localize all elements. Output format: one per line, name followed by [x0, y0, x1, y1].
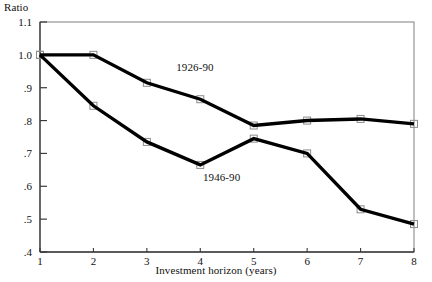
y-tick-label: .5	[6, 213, 32, 225]
data-point-markers	[37, 51, 418, 227]
line-chart-plot	[0, 0, 432, 282]
chart-figure: Ratio .4.5.6.7.8.91.01.1 12345678 1926-9…	[0, 0, 432, 282]
y-tick-label: .4	[6, 246, 32, 258]
y-axis-title: Ratio	[4, 1, 28, 13]
y-tick-label: .8	[6, 115, 32, 127]
y-tick-label: .7	[6, 147, 32, 159]
series-annotation: 1946-90	[203, 171, 240, 183]
y-tick-label: .9	[6, 82, 32, 94]
data-series-lines	[40, 55, 414, 224]
series-annotation: 1926-90	[176, 61, 213, 73]
x-axis-title: Investment horizon (years)	[0, 264, 432, 276]
y-tick-label: 1.1	[6, 16, 32, 28]
y-tick-label: .6	[6, 180, 32, 192]
y-tick-label: 1.0	[6, 49, 32, 61]
